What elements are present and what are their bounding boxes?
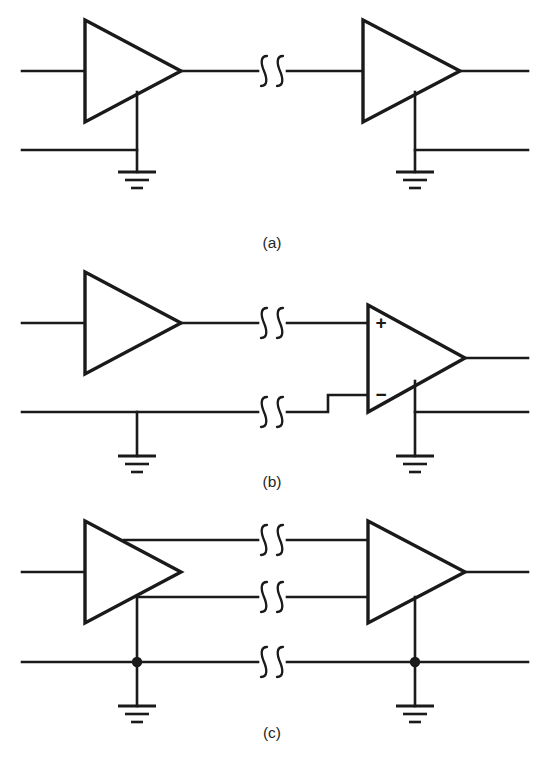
panel-b-plus-input-label: + [375,312,386,333]
panel-a-receiver-ground-icon [396,172,434,188]
panel-a-label: (a) [263,234,282,251]
panel-c-cable-break-signal-high-icon [261,525,283,555]
panel-a-source-amplifier [85,20,181,122]
panel-a-cable-break-signal-icon [261,56,283,86]
panel-c-source-amplifier [85,521,181,623]
panel-b-signal-low-step-wire [287,395,368,412]
panel-b-source-ground-icon [118,456,156,472]
panel-c-receiver-amplifier [368,521,465,623]
panel-c-cable-break-signal-low-icon [261,582,283,612]
panel-c: (c) [22,521,528,741]
panel-a-receiver-amplifier [363,20,460,122]
panel-a: (a) [22,20,528,251]
circuit-figure: (a) [0,0,544,762]
panel-b-receiver-ground-icon [396,456,434,472]
panel-c-cable-break-common-icon [261,647,283,677]
panel-c-receiver-ground-junction-dot [410,657,420,667]
panel-b-cable-break-signal-low-icon [261,397,283,427]
panel-c-receiver-ground-icon [396,706,434,722]
panel-c-source-ground-junction-dot [132,657,142,667]
circuit-diagram-canvas: (a) [0,0,544,762]
panel-b-source-amplifier [85,272,181,374]
panel-b-label: (b) [263,473,282,490]
panel-c-source-ground-icon [118,706,156,722]
panel-b: + − (b) [22,272,528,490]
panel-b-minus-input-label: − [375,384,386,405]
panel-c-label: (c) [263,724,281,741]
panel-a-source-ground-icon [118,172,156,188]
panel-b-cable-break-signal-high-icon [261,308,283,338]
